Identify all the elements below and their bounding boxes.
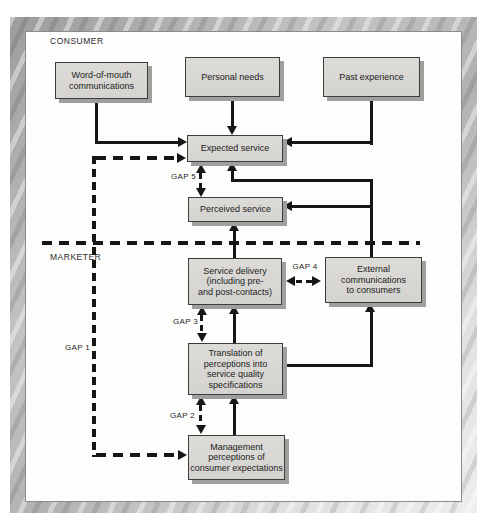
arrowhead-up bbox=[365, 303, 375, 312]
consumer-section-label: CONSUMER bbox=[50, 36, 104, 46]
arrowhead-up bbox=[229, 305, 239, 314]
line-segment bbox=[95, 98, 98, 144]
arrowhead-down bbox=[197, 333, 207, 342]
line-segment bbox=[233, 403, 236, 435]
line-segment bbox=[283, 364, 373, 367]
gap5-label: GAP 5 bbox=[158, 172, 196, 181]
consumer-marketer-divider bbox=[42, 241, 420, 245]
node-external-communications: External communications to consumers bbox=[325, 257, 422, 303]
arrowhead-up bbox=[227, 162, 237, 171]
arrowhead-right bbox=[178, 450, 187, 460]
line-segment bbox=[233, 313, 236, 343]
arrowhead-right bbox=[178, 137, 187, 147]
arrowhead-up bbox=[196, 396, 206, 405]
line-segment bbox=[231, 171, 234, 181]
node-perceived-service: Perceived service bbox=[188, 197, 283, 222]
node-service-delivery: Service delivery (including pre- and pos… bbox=[188, 258, 282, 305]
dashed-line-segment bbox=[96, 453, 178, 457]
arrowhead-down bbox=[196, 188, 206, 197]
gap2-label: GAP 2 bbox=[157, 411, 195, 420]
arrowhead-left bbox=[286, 276, 295, 286]
dashed-line-segment bbox=[199, 405, 202, 425]
line-segment bbox=[370, 311, 373, 366]
line-segment bbox=[95, 141, 179, 144]
line-segment bbox=[370, 97, 373, 145]
node-word-of-mouth: Word-of-mouth communications bbox=[55, 62, 148, 99]
arrowhead-left bbox=[283, 201, 292, 211]
gap4-label: GAP 4 bbox=[287, 262, 323, 271]
arrowhead-left bbox=[283, 137, 292, 147]
node-translation: Translation of perceptions into service … bbox=[188, 343, 283, 395]
dashed-line-segment bbox=[199, 173, 202, 188]
arrowhead-up bbox=[229, 222, 239, 231]
arrowhead-up bbox=[196, 164, 206, 173]
line-segment bbox=[231, 179, 373, 182]
arrowhead-down bbox=[227, 126, 237, 135]
node-personal-needs: Personal needs bbox=[185, 57, 280, 97]
line-segment bbox=[292, 141, 373, 144]
line-segment bbox=[231, 97, 234, 128]
line-segment bbox=[233, 230, 236, 258]
arrowhead-right bbox=[177, 153, 186, 163]
arrowhead-right bbox=[312, 276, 321, 286]
arrowhead-up bbox=[229, 395, 239, 404]
line-segment bbox=[370, 179, 373, 257]
dashed-line-segment bbox=[296, 280, 312, 283]
gaps-model-diagram: CONSUMER MARKETER bbox=[0, 0, 483, 525]
node-past-experience: Past experience bbox=[323, 57, 420, 97]
node-expected-service: Expected service bbox=[187, 135, 283, 162]
arrowhead-up bbox=[197, 306, 207, 315]
arrowhead-down bbox=[196, 425, 206, 434]
line-segment bbox=[292, 205, 373, 208]
dashed-line-segment bbox=[96, 156, 177, 160]
dashed-line-segment bbox=[92, 156, 96, 457]
gap1-label: GAP 1 bbox=[54, 343, 90, 352]
node-management-perceptions: Management perceptions of consumer expec… bbox=[188, 435, 285, 480]
gap3-label: GAP 3 bbox=[160, 317, 198, 326]
dashed-line-segment bbox=[200, 315, 203, 333]
